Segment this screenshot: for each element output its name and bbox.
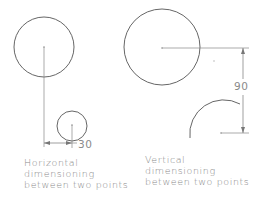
horizontal-dimension-value: 30 [78, 138, 92, 150]
horizontal-caption-line-2: dimensioning [24, 168, 128, 179]
large-circle-right [124, 9, 200, 85]
vertical-dimension-example [124, 9, 249, 138]
horizontal-caption: Horizontal dimensioning between two poin… [24, 157, 128, 190]
vertical-dimension-value: 90 [234, 80, 248, 92]
vertical-caption-line-2: dimensioning [145, 165, 249, 176]
stray-point [213, 60, 214, 61]
vertical-caption-line-3: between two points [145, 176, 249, 187]
horizontal-caption-line-1: Horizontal [24, 157, 128, 168]
arc [190, 100, 240, 138]
horizontal-caption-line-3: between two points [24, 179, 128, 190]
horizontal-dimension-example [14, 17, 87, 148]
vertical-caption: Vertical dimensioning between two points [145, 154, 249, 187]
vertical-caption-line-1: Vertical [145, 154, 249, 165]
